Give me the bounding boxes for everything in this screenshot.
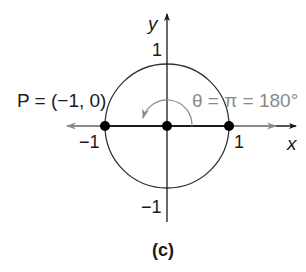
y-tick-neg: −1	[141, 197, 162, 217]
y-tick-pos: 1	[152, 40, 162, 60]
angle-label: θ = π = 180°	[192, 90, 298, 111]
x-tick-neg: −1	[79, 132, 100, 152]
x-tick-pos: 1	[234, 132, 244, 152]
diagram-canvas: y 1 −1 x 1 −1 P = (−1, 0) θ = π = 180° (…	[0, 0, 306, 272]
point-one-dot	[224, 121, 234, 131]
y-axis-label: y	[146, 13, 159, 34]
unit-circle-figure: y 1 −1 x 1 −1 P = (−1, 0) θ = π = 180° (…	[0, 0, 306, 272]
origin-dot	[162, 121, 172, 131]
x-axis-label: x	[286, 133, 298, 154]
point-p-dot	[100, 121, 110, 131]
figure-caption: (c)	[152, 240, 174, 260]
point-p-label: P = (−1, 0)	[17, 90, 106, 111]
